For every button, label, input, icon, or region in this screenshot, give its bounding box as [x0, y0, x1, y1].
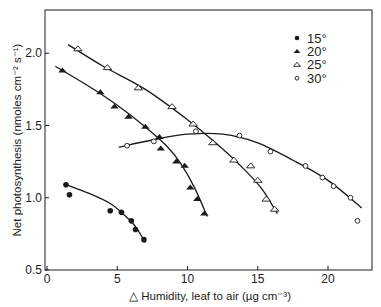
filled-circle-marker: [133, 227, 139, 233]
x-tick-label: 0: [44, 272, 51, 286]
open-circle-marker: [268, 149, 273, 154]
x-axis-label: △ Humidity, leaf to air (µg cm⁻³): [129, 290, 291, 302]
open-triangle-marker: [270, 206, 278, 211]
legend: 15°20°25°30°: [294, 31, 327, 86]
y-tick-label: 1.0: [25, 191, 42, 205]
filled-circle-marker: [67, 192, 73, 198]
filled-circle-marker: [119, 209, 125, 215]
fit-curve-20deg: [55, 66, 207, 216]
series-20deg: [58, 68, 208, 216]
open-circle-marker: [151, 139, 156, 144]
filled-circle-marker: [129, 218, 135, 224]
open-circle-marker: [194, 129, 199, 134]
fit-curve-25deg: [68, 45, 277, 214]
photosynthesis-chart: 05101520 0.51.01.52.0 15°20°25°30° △ Hum…: [0, 0, 381, 307]
y-axis-label: Net photosynthesis (nmoles cm⁻² s⁻¹): [11, 43, 23, 236]
y-tick-label: 2.0: [25, 46, 42, 60]
fit-curve-30deg: [119, 133, 362, 208]
filled-circle-marker: [295, 36, 300, 41]
filled-circle-marker: [107, 208, 113, 214]
fit-curve-15deg: [66, 185, 145, 243]
filled-circle-marker: [63, 182, 69, 188]
filled-triangle-marker: [294, 49, 301, 53]
filled-circle-marker: [141, 237, 147, 243]
filled-triangle-marker: [157, 146, 165, 151]
open-circle-marker: [331, 184, 336, 189]
open-circle-marker: [303, 164, 308, 169]
open-circle-marker: [320, 175, 325, 180]
legend-item: 30°: [295, 71, 327, 86]
x-axis: 05101520: [44, 266, 335, 286]
series-30deg: [125, 129, 360, 223]
series-15deg: [63, 182, 147, 243]
y-tick-label: 1.5: [25, 119, 42, 133]
filled-triangle-marker: [200, 211, 208, 216]
open-circle-marker: [237, 133, 242, 138]
open-circle-marker: [295, 76, 299, 80]
open-circle-marker: [355, 218, 360, 223]
x-tick-label: 5: [114, 272, 121, 286]
open-circle-marker: [125, 143, 130, 148]
open-triangle-marker: [294, 62, 301, 66]
x-tick-label: 10: [181, 272, 195, 286]
open-triangle-marker: [262, 196, 270, 201]
series-25deg: [74, 46, 279, 211]
y-tick-label: 0.5: [25, 263, 42, 277]
open-triangle-marker: [247, 163, 255, 168]
x-tick-label: 15: [251, 272, 265, 286]
open-triangle-marker: [230, 157, 238, 162]
open-circle-marker: [348, 195, 353, 200]
legend-label: 30°: [307, 71, 327, 86]
x-tick-label: 20: [321, 272, 335, 286]
